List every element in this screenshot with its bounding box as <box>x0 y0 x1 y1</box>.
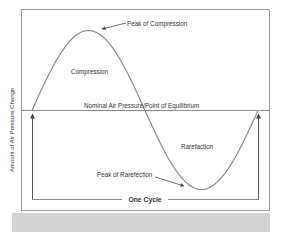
air-pressure-diagram: Peak of Compression Compression Nominal … <box>0 0 282 232</box>
footer-band <box>12 213 270 232</box>
peak-compression-pointer <box>102 23 126 29</box>
compression-label: Compression <box>71 68 109 76</box>
y-axis-label: Amount of Air Pressure Change <box>9 87 15 172</box>
rarefaction-label: Rarefaction <box>181 143 214 150</box>
peak-rarefaction-pointer <box>155 177 184 186</box>
one-cycle-label: One Cycle <box>128 196 161 204</box>
peak-compression-label: Peak of Compression <box>127 20 188 28</box>
equilibrium-label: Nominal Air Pressure/Point of Equilibriu… <box>84 102 199 110</box>
peak-rarefaction-label: Peak of Rarefection <box>97 171 153 178</box>
